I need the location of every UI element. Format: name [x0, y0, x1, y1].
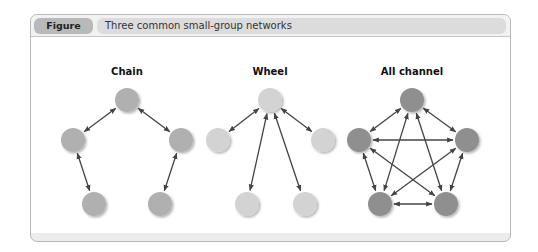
wheel-node [311, 128, 335, 152]
network-title-wheel: Wheel [252, 66, 287, 77]
wheel-node [206, 128, 230, 152]
all-channel-node [455, 128, 479, 152]
chain-node [61, 128, 85, 152]
all-channel-edge-arrow [450, 153, 462, 190]
chain-edge-arrow [138, 108, 170, 131]
all-channel-edge-arrow [391, 148, 455, 195]
wheel-node [235, 192, 259, 216]
wheel-edge-arrow [250, 114, 267, 191]
chain-edge-arrow [84, 108, 116, 131]
chain-node [82, 192, 106, 216]
chain-node [148, 192, 172, 216]
wheel-edge-arrow [229, 109, 259, 132]
all-channel-node [347, 128, 371, 152]
all-channel-edge-arrow [384, 113, 408, 190]
network-diagrams: Chain Wheel All channel [0, 0, 538, 252]
chain-edge-arrow [77, 153, 89, 190]
wheel-node [293, 192, 317, 216]
all-channel-node [434, 192, 458, 216]
all-channel-edge-arrow [423, 108, 455, 132]
all-channel-node [368, 192, 392, 216]
all-channel-edge-arrow [370, 148, 434, 195]
chain-node [169, 128, 193, 152]
all-channel-edge-arrow [416, 113, 441, 190]
all-channel-edge-arrow [363, 153, 375, 190]
network-title-chain: Chain [111, 66, 143, 77]
chain-edge-arrow [164, 153, 176, 190]
all-channel-node [400, 88, 424, 112]
all-channel-edge-arrow [370, 108, 401, 131]
network-title-all-channel: All channel [381, 66, 443, 77]
wheel-node [258, 88, 282, 112]
wheel-edge-arrow [281, 108, 312, 131]
chain-node [115, 88, 139, 112]
wheel-edge-arrow [274, 113, 300, 190]
